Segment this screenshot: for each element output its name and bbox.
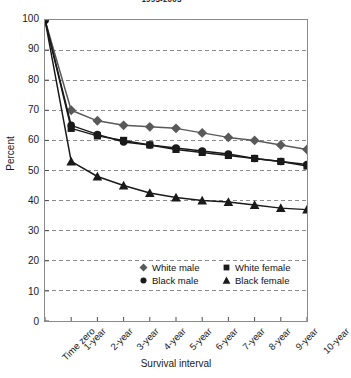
legend-label: White male <box>152 262 200 273</box>
diamond-data-marker <box>197 128 207 138</box>
y-tick-label: 80 <box>5 75 39 85</box>
y-tick-label: 0 <box>5 317 39 327</box>
diamond-data-marker <box>223 132 233 142</box>
diamond-data-marker <box>119 120 129 130</box>
circle-data-marker <box>225 150 232 157</box>
y-axis-title: Percent <box>5 114 16 194</box>
x-tick-label: 6-year <box>214 326 240 352</box>
circle-data-marker <box>94 131 101 138</box>
y-tick-label: 100 <box>5 14 39 24</box>
legend-item-black-female[interactable]: Black female <box>221 275 304 286</box>
series-white-male <box>45 20 307 154</box>
y-tick-label: 30 <box>5 226 39 236</box>
legend-label: Black female <box>235 275 289 286</box>
legend-label: Black male <box>152 275 198 286</box>
diamond-data-marker <box>276 140 286 150</box>
circle-data-marker <box>172 144 179 151</box>
chart-legend: White maleWhite femaleBlack maleBlack fe… <box>138 262 304 286</box>
x-tick-label: 3-year <box>135 326 161 352</box>
x-tick-label: 8-year <box>267 326 293 352</box>
x-tick-label: 5-year <box>188 326 214 352</box>
triangle-data-marker <box>93 172 103 181</box>
diamond-data-marker <box>92 116 102 126</box>
legend-label: White female <box>235 262 290 273</box>
diamond-data-marker <box>250 135 260 145</box>
triangle-data-marker <box>223 277 231 284</box>
x-axis-title: Survival interval <box>44 358 308 369</box>
legend-item-white-male[interactable]: White male <box>138 262 213 273</box>
time-zero-marker <box>45 20 49 24</box>
x-tick-label: 2-year <box>109 326 135 352</box>
circle-data-marker <box>277 158 284 165</box>
x-tick-label: 4-year <box>161 326 187 352</box>
circle-data-marker <box>140 277 146 283</box>
triangle-data-marker <box>66 157 76 166</box>
diamond-data-marker <box>302 144 307 154</box>
y-tick-label: 90 <box>5 44 39 54</box>
x-tick-label: 9-year <box>293 326 319 352</box>
circle-data-marker <box>198 147 205 154</box>
circle-data-marker <box>120 138 127 145</box>
legend-item-white-female[interactable]: White female <box>221 262 304 273</box>
y-tick-label: 40 <box>5 196 39 206</box>
series-black-male <box>45 20 307 168</box>
x-tick-label: 10-year <box>321 326 351 356</box>
y-tick-label: 10 <box>5 287 39 297</box>
circle-data-marker <box>67 122 74 129</box>
chart-title: 1993-2003 <box>0 0 323 4</box>
x-tick-label: 7-year <box>241 326 267 352</box>
circle-data-marker <box>251 155 258 162</box>
y-tick-label: 20 <box>5 256 39 266</box>
circle-data-marker <box>146 141 153 148</box>
square-data-marker <box>224 265 230 271</box>
circle-icon <box>138 275 149 286</box>
diamond-data-marker <box>139 263 147 271</box>
series-black-female <box>45 20 307 214</box>
diamond-data-marker <box>145 122 155 132</box>
square-icon <box>221 262 232 273</box>
series-line <box>45 20 307 166</box>
legend-item-black-male[interactable]: Black male <box>138 275 213 286</box>
diamond-icon <box>138 262 149 273</box>
diamond-data-marker <box>171 123 181 133</box>
triangle-icon <box>221 275 232 286</box>
